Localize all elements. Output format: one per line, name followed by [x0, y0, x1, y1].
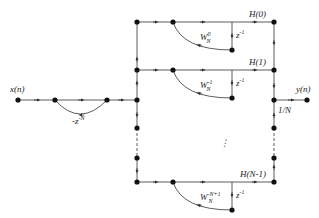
- comb-gain-label: -z-N: [72, 115, 85, 126]
- branch-n1-twiddle: W-N+1N: [200, 191, 221, 204]
- branch-0-h-label: H(0): [248, 9, 266, 19]
- branch-n1-h-label: H(N-1): [239, 169, 266, 179]
- branch-0-twiddle: W0N: [200, 31, 212, 44]
- scale-gain-label: 1/N: [278, 105, 292, 115]
- comb-feedforward: [55, 100, 107, 114]
- branch-1-delay: z-1: [235, 77, 245, 88]
- nodes: [15, 19, 309, 212]
- branch-0-delay: z-1: [235, 29, 245, 40]
- branch-n1-delay: z-1: [235, 189, 245, 200]
- branch-1-twiddle: W-1N: [200, 79, 213, 92]
- signal-flow-diagram: x(n) -z-N y(n) 1/N ⋮ H(0) z-1 W0N H(1) z…: [0, 0, 319, 218]
- output-label: y(n): [295, 84, 311, 94]
- input-label: x(n): [9, 84, 25, 94]
- ellipsis: ⋮: [220, 138, 229, 148]
- branch-1-h-label: H(1): [248, 57, 266, 67]
